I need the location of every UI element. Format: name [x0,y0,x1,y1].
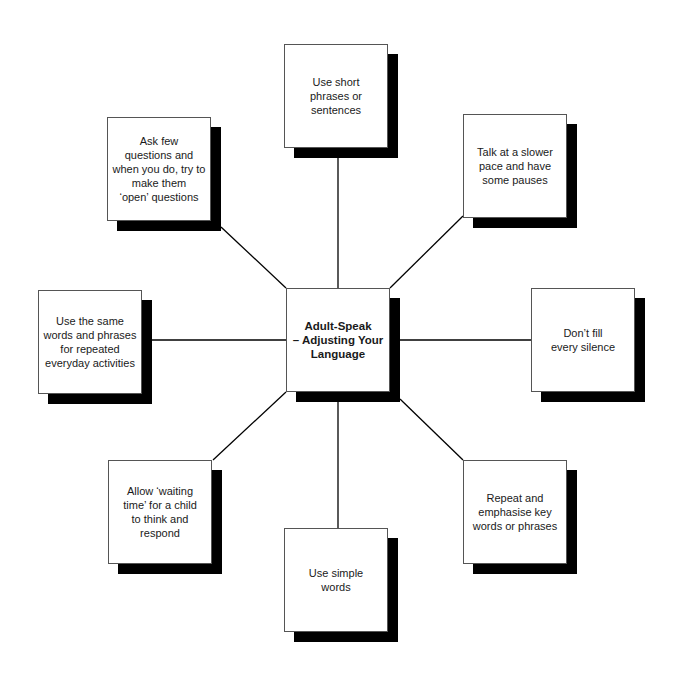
label-line: words and phrases [44,328,137,342]
label-line: emphasise key [473,505,557,519]
label-line: Allow ‘waiting [123,484,197,498]
label-line: questions and [113,148,206,162]
label-line: Repeat and [473,491,557,505]
label-line: Talk at a slower [477,145,553,159]
label-line: some pauses [477,173,553,187]
label-line: Don’t fill [551,326,615,340]
node-repeat-emphasise: Repeat and emphasise key words or phrase… [463,460,567,564]
label-line: everyday activities [44,356,137,370]
label-line: for repeated [44,342,137,356]
label-line: Use short [310,75,362,89]
node-box: Ask few questions and when you do, try t… [107,117,211,221]
label-line: pace and have [477,159,553,173]
node-label: Use simple words [305,566,367,594]
label-line: Use the same [44,314,137,328]
center-box: Adult-Speak – Adjusting Your Language [286,288,390,392]
node-same-words: Use the same words and phrases for repea… [38,290,142,394]
node-box: Use simple words [284,528,388,632]
center-label-line: Adult-Speak [293,319,384,333]
node-simple-words: Use simple words [284,528,388,632]
node-label: Use the same words and phrases for repea… [40,314,141,370]
label-line: to think and [123,512,197,526]
node-box: Use the same words and phrases for repea… [38,290,142,394]
center-node: Adult-Speak – Adjusting Your Language [286,288,390,392]
label-line: make them [113,176,206,190]
center-label-line: – Adjusting Your [293,333,384,347]
label-line: Use simple [309,566,363,580]
node-dont-fill-silence: Don’t fill every silence [531,288,635,392]
adult-speak-diagram: Adult-Speak – Adjusting Your Language Us… [0,0,683,698]
label-line: time’ for a child [123,498,197,512]
connector-top-right [390,216,463,288]
node-label: Use short phrases or sentences [306,75,366,117]
label-line: Ask few [113,134,206,148]
center-label: Adult-Speak – Adjusting Your Language [289,319,388,361]
node-box: Repeat and emphasise key words or phrase… [463,460,567,564]
node-short-phrases: Use short phrases or sentences [284,44,388,148]
node-label: Talk at a slower pace and have some paus… [473,145,557,187]
label-line: sentences [310,103,362,117]
connector-bottom-left [213,392,286,460]
node-box: Don’t fill every silence [531,288,635,392]
node-label: Repeat and emphasise key words or phrase… [469,491,561,533]
label-line: phrases or [310,89,362,103]
node-waiting-time: Allow ‘waiting time’ for a child to thin… [108,460,212,564]
node-box: Allow ‘waiting time’ for a child to thin… [108,460,212,564]
node-label: Ask few questions and when you do, try t… [109,134,210,204]
label-line: every silence [551,340,615,354]
node-ask-few-questions: Ask few questions and when you do, try t… [107,117,211,221]
connector-top-left [221,227,286,288]
center-label-line: Language [293,347,384,361]
node-box: Talk at a slower pace and have some paus… [463,114,567,218]
label-line: respond [123,526,197,540]
node-slower-pace: Talk at a slower pace and have some paus… [463,114,567,218]
label-line: ‘open’ questions [113,190,206,204]
node-label: Don’t fill every silence [547,326,619,354]
node-label: Allow ‘waiting time’ for a child to thin… [119,484,201,540]
label-line: words or phrases [473,519,557,533]
label-line: when you do, try to [113,162,206,176]
label-line: words [309,580,363,594]
node-box: Use short phrases or sentences [284,44,388,148]
connector-bottom-right [400,399,463,460]
